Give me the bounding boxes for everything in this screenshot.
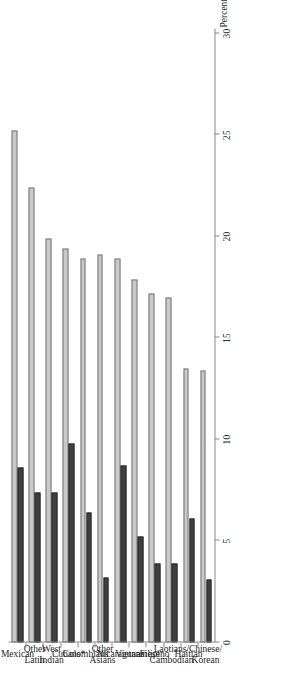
axis-tick xyxy=(214,235,219,236)
category-separator-tick xyxy=(77,642,78,647)
category-separator-tick xyxy=(145,642,146,647)
category-separator-tick xyxy=(111,642,112,647)
category-separator-tick xyxy=(197,642,198,647)
bar xyxy=(131,279,137,642)
category-label: Chinese/ Korean xyxy=(189,644,222,665)
bar xyxy=(206,579,212,642)
axis-tick xyxy=(214,337,219,338)
bar xyxy=(183,368,189,642)
bar xyxy=(200,370,206,642)
bar xyxy=(154,563,160,642)
axis-tick xyxy=(214,438,219,439)
y-axis-title: Percent xyxy=(218,0,228,27)
bar xyxy=(45,238,51,642)
bar xyxy=(62,248,68,642)
axis-tick-label: 15 xyxy=(221,333,231,343)
axis-tick-label: 5 xyxy=(221,538,231,543)
axis-tick-label: 0 xyxy=(221,640,231,645)
bar xyxy=(165,297,171,642)
bar xyxy=(11,130,17,642)
category-separator-tick xyxy=(163,642,164,647)
axis-tick xyxy=(214,32,219,33)
axis-tick xyxy=(214,134,219,135)
bar xyxy=(28,187,34,642)
axis-tick-label: 10 xyxy=(221,434,231,444)
bar xyxy=(171,563,177,642)
bar xyxy=(80,258,86,642)
bar-chart: Percent 051015202530 MexicanOther LatinW… xyxy=(0,0,291,697)
category-separator-tick xyxy=(42,642,43,647)
bar xyxy=(137,536,143,642)
axis-tick xyxy=(214,540,219,541)
category-separator-tick xyxy=(128,642,129,647)
bar xyxy=(34,492,40,642)
category-axis-line xyxy=(8,641,214,642)
category-separator-tick xyxy=(25,642,26,647)
bar xyxy=(17,467,23,642)
bar xyxy=(97,254,103,642)
axis-tick-label: 20 xyxy=(221,231,231,241)
bar xyxy=(189,518,195,642)
bar xyxy=(51,492,57,642)
rotated-figure-container: Percent 051015202530 MexicanOther LatinW… xyxy=(0,0,291,697)
category-separator-tick xyxy=(60,642,61,647)
axis-tick-label: 30 xyxy=(221,28,231,38)
bar xyxy=(68,443,74,642)
category-separator-tick xyxy=(180,642,181,647)
bar xyxy=(86,512,92,642)
axis-tick-label: 25 xyxy=(221,130,231,140)
bar xyxy=(120,465,126,642)
bar xyxy=(114,258,120,642)
bar xyxy=(148,293,154,642)
category-separator-tick xyxy=(94,642,95,647)
axis-tick xyxy=(214,641,219,642)
bar xyxy=(103,577,109,642)
